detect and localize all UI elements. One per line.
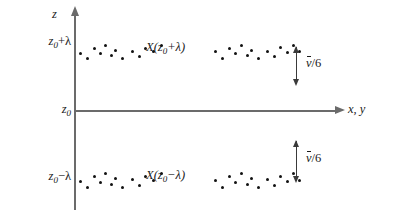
molecule-dot	[214, 50, 217, 53]
molecule-dot	[257, 186, 260, 189]
molecule-dot	[240, 44, 243, 47]
molecule-dot	[114, 177, 117, 180]
molecule-dot	[273, 55, 276, 58]
molecule-dot	[110, 54, 113, 57]
z-axis-arrowhead-icon	[71, 6, 79, 16]
molecule-dot	[234, 181, 237, 184]
molecule-dot	[138, 55, 141, 58]
tick-upper-offset: +λ	[58, 34, 71, 48]
upper-band-label-tail: +λ)	[167, 40, 185, 54]
kinetic-theory-diagram: z x, y z0+λ z0 z0−λ X(z0+λ) X(z0−λ) v/6 …	[0, 0, 397, 213]
tick-lower-offset: −λ	[58, 169, 71, 183]
upper-flux-label: v/6	[306, 57, 321, 70]
lower-flux-arrowhead-down-icon	[293, 176, 299, 183]
tick-origin-sub: 0	[67, 108, 72, 118]
molecule-dot	[228, 47, 231, 50]
upper-flux-arrowhead-down-icon	[293, 79, 299, 86]
molecule-dot	[250, 49, 253, 52]
xy-axis-arrowhead-icon	[335, 106, 345, 114]
molecule-dot	[292, 172, 295, 175]
molecule-dot	[279, 175, 282, 178]
molecule-dot	[79, 180, 82, 183]
upper-flux-vbar: v	[306, 57, 312, 70]
molecule-dot	[93, 175, 96, 178]
molecule-dot	[286, 180, 289, 183]
molecule-dot	[104, 44, 107, 47]
molecule-dot	[114, 49, 117, 52]
molecule-dot	[221, 186, 224, 189]
z-axis-line	[74, 14, 76, 210]
molecule-dot	[99, 52, 102, 55]
upper-flux-arrow-shaft	[296, 47, 297, 82]
lower-flux-arrow-shaft	[296, 141, 297, 179]
molecule-dot	[273, 184, 276, 187]
molecule-dot	[99, 181, 102, 184]
molecule-dot	[104, 172, 107, 175]
molecule-dot	[266, 178, 269, 181]
xy-axis-line	[74, 110, 337, 112]
molecule-dot	[257, 57, 260, 60]
molecule-dot	[246, 183, 249, 186]
molecule-dot	[86, 57, 89, 60]
molecule-dot	[121, 186, 124, 189]
molecule-dot	[121, 57, 124, 60]
tick-label-lower-plane: z0−λ	[49, 170, 72, 185]
lower-band-label-tail: −λ)	[167, 168, 185, 182]
molecule-dot	[240, 172, 243, 175]
upper-band-label: X(z0+λ)	[146, 41, 185, 56]
tick-label-upper-plane: z0+λ	[49, 35, 72, 50]
molecule-dot	[228, 175, 231, 178]
molecule-dot	[279, 46, 282, 49]
molecule-dot	[286, 51, 289, 54]
tick-label-origin-plane: z0	[62, 103, 71, 118]
molecule-dot	[234, 52, 237, 55]
molecule-dot	[79, 52, 82, 55]
molecule-dot	[266, 50, 269, 53]
molecule-dot	[246, 54, 249, 57]
molecule-dot	[131, 178, 134, 181]
z-axis-label: z	[52, 8, 57, 21]
molecule-dot	[214, 179, 217, 182]
molecule-dot	[93, 47, 96, 50]
molecule-dot	[221, 57, 224, 60]
upper-flux-denominator: /6	[312, 56, 322, 70]
xy-axis-label: x, y	[348, 103, 365, 116]
molecule-dot	[110, 183, 113, 186]
molecule-dot	[86, 186, 89, 189]
molecule-dot	[131, 50, 134, 53]
lower-flux-vbar: v	[306, 152, 312, 165]
lower-flux-denominator: /6	[312, 151, 322, 165]
molecule-dot	[250, 177, 253, 180]
molecule-dot	[138, 184, 141, 187]
lower-flux-label: v/6	[306, 152, 321, 165]
